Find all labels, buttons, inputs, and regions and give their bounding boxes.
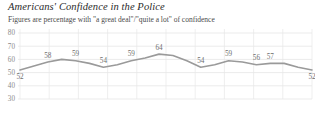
y-axis-tick-label: 70 <box>8 43 16 51</box>
line-chart-svg: 807060504030 5258595459645459565752 <box>0 0 315 114</box>
data-point-label: 59 <box>72 50 80 58</box>
data-point-label: 64 <box>155 44 163 52</box>
data-point-label: 59 <box>225 50 233 58</box>
data-point-label: 59 <box>128 50 136 58</box>
y-axis-tick-label: 60 <box>8 56 16 64</box>
data-point-label: 54 <box>100 57 108 65</box>
y-axis-tick-label: 30 <box>8 95 16 103</box>
data-point-label: 58 <box>44 52 52 60</box>
chart-figure: Americans' Confidence in the Police Figu… <box>0 0 315 114</box>
plot-area: 807060504030 5258595459645459565752 <box>0 0 315 114</box>
y-axis-tick-label: 50 <box>8 69 16 77</box>
data-point-label: 57 <box>267 53 275 61</box>
data-point-label: 52 <box>16 73 24 81</box>
data-point-label: 52 <box>308 73 315 81</box>
y-axis-tick-label: 40 <box>8 82 16 90</box>
data-point-label: 56 <box>253 54 261 62</box>
data-point-label: 54 <box>197 57 205 65</box>
y-axis-tick-labels: 807060504030 <box>8 29 16 103</box>
horizontal-gridlines <box>18 33 312 99</box>
y-axis-tick-label: 80 <box>8 29 16 37</box>
